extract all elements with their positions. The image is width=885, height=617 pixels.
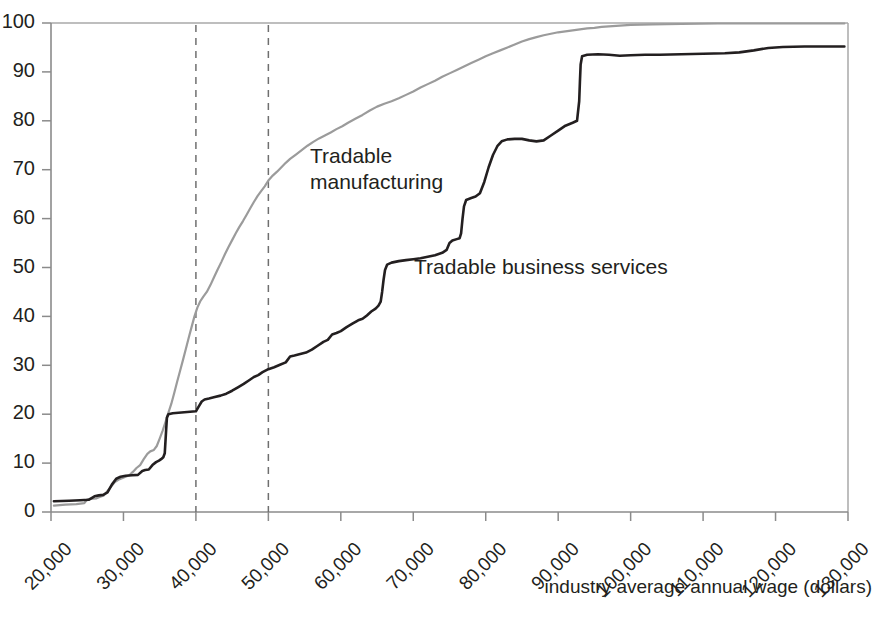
y-tick-label: 10 <box>13 450 35 472</box>
chart-container: 0102030405060708090100 20,00030,00040,00… <box>0 0 885 617</box>
x-tick-label: 40,000 <box>165 538 221 594</box>
x-tick-label: 20,000 <box>20 538 76 594</box>
y-tick-label: 100 <box>2 10 35 32</box>
series-label-manufacturing-line2: manufacturing <box>310 170 443 193</box>
y-tick-label: 90 <box>13 59 35 81</box>
x-tick-label: 80,000 <box>455 538 511 594</box>
series-label-business-services: Tradable business services <box>414 255 668 278</box>
annotation-tradable-manufacturing: Tradable manufacturing <box>310 144 443 193</box>
series-label-manufacturing-line1: Tradable <box>310 144 392 167</box>
y-tick-label: 30 <box>13 353 35 375</box>
x-tick-label: 60,000 <box>310 538 366 594</box>
y-tick-label: 70 <box>13 157 35 179</box>
y-tick-label: 40 <box>13 304 35 326</box>
reference-lines <box>196 25 268 512</box>
y-tick-label: 80 <box>13 108 35 130</box>
y-tick-label: 50 <box>13 255 35 277</box>
y-tick-label: 60 <box>13 206 35 228</box>
x-tick-label: 70,000 <box>382 538 438 594</box>
x-tick-label: 30,000 <box>92 538 148 594</box>
y-tick-label: 20 <box>13 401 35 423</box>
x-axis-title: industry average annual wage (dollars) <box>545 576 872 597</box>
y-tick-label: 0 <box>24 499 35 521</box>
cumulative-distribution-chart: 0102030405060708090100 20,00030,00040,00… <box>0 0 885 617</box>
y-axis-ticks: 0102030405060708090100 <box>2 10 51 521</box>
x-tick-label: 50,000 <box>237 538 293 594</box>
